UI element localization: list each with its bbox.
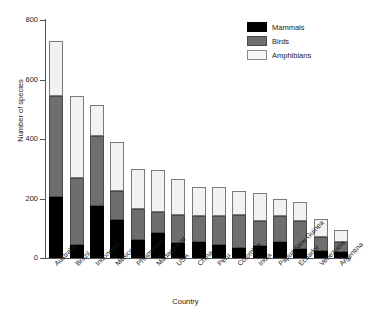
- bar-australia: [49, 41, 63, 258]
- species-by-country-chart: 0200400600800 Number of species Country …: [0, 0, 371, 325]
- segment-amphibians: [49, 41, 63, 96]
- segment-amphibians: [171, 179, 185, 215]
- segment-amphibians: [110, 142, 124, 191]
- bar-colombia: [232, 191, 246, 258]
- segment-birds: [192, 216, 206, 241]
- segment-amphibians: [212, 187, 226, 217]
- segment-birds: [49, 96, 63, 197]
- legend-item-mammals: Mammals: [247, 21, 311, 33]
- x-axis-title: Country: [0, 297, 371, 306]
- segment-birds: [151, 212, 165, 233]
- segment-amphibians: [151, 170, 165, 212]
- legend-swatch-birds: [247, 36, 267, 46]
- segment-birds: [131, 209, 145, 240]
- segment-birds: [110, 191, 124, 220]
- chart-legend: Mammals Birds Amphibians: [247, 21, 311, 63]
- bar-peru: [212, 187, 226, 258]
- bar-indonesia: [90, 105, 104, 258]
- y-tick-mark: [40, 199, 45, 200]
- segment-mammals: [90, 206, 104, 258]
- legend-swatch-mammals: [247, 22, 267, 32]
- segment-birds: [273, 216, 287, 241]
- segment-amphibians: [70, 96, 84, 178]
- segment-amphibians: [273, 199, 287, 217]
- bar-brazil: [70, 96, 84, 258]
- segment-birds: [212, 216, 226, 244]
- legend-label-mammals: Mammals: [272, 23, 305, 32]
- bar-mexico: [110, 142, 124, 258]
- y-tick-mark: [40, 80, 45, 81]
- segment-birds: [90, 136, 104, 206]
- bar-china: [192, 187, 206, 258]
- segment-amphibians: [131, 169, 145, 209]
- y-tick-mark: [40, 139, 45, 140]
- legend-swatch-amphibians: [247, 50, 267, 60]
- segment-amphibians: [293, 202, 307, 221]
- legend-item-amphibians: Amphibians: [247, 49, 311, 61]
- segment-amphibians: [253, 193, 267, 221]
- segment-amphibians: [90, 105, 104, 136]
- y-tick-label: 200: [4, 195, 38, 203]
- y-axis-title: Number of species: [16, 65, 25, 157]
- y-tick-label: 0: [4, 254, 38, 262]
- y-tick-mark: [40, 20, 45, 21]
- legend-label-amphibians: Amphibians: [272, 51, 311, 60]
- segment-birds: [70, 178, 84, 245]
- legend-label-birds: Birds: [272, 37, 289, 46]
- y-tick-label: 800: [4, 16, 38, 24]
- bar-philippines: [131, 169, 145, 258]
- segment-birds: [232, 215, 246, 248]
- segment-amphibians: [192, 187, 206, 217]
- legend-item-birds: Birds: [247, 35, 311, 47]
- bar-papua-new-guinea: [273, 199, 287, 258]
- y-axis-ticks: 0200400600800: [0, 0, 38, 325]
- y-tick-mark: [40, 258, 45, 259]
- segment-mammals: [49, 197, 63, 258]
- segment-amphibians: [232, 191, 246, 215]
